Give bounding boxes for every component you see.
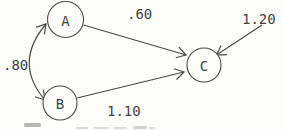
edge-label-external-to-C: 1.20 — [242, 11, 276, 27]
edge-label-A-with-B: .80 — [3, 57, 28, 73]
node-label-B: B — [56, 96, 64, 112]
node-label-C: C — [200, 58, 208, 74]
edge-label-B-to-C: 1.10 — [107, 103, 141, 119]
edge-label-A-to-C: .60 — [127, 6, 152, 22]
edge-A-to-C — [84, 25, 187, 55]
path-diagram: ABC .601.101.20.80 — [0, 0, 283, 130]
node-label-A: A — [61, 13, 70, 29]
path-diagram-canvas: ABC .601.101.20.80 — [0, 0, 283, 130]
edge-external-to-C — [217, 25, 263, 55]
edge-B-to-C — [77, 72, 184, 98]
edge-A-with-B — [29, 24, 46, 100]
